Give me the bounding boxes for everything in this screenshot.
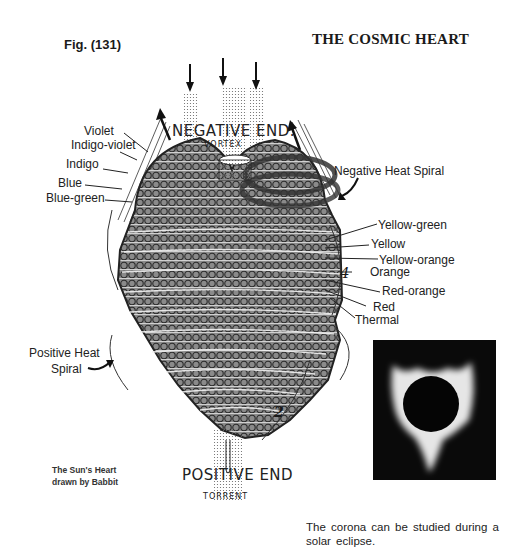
label-spiral: Spiral [51, 362, 82, 376]
label-positive-heat: Positive Heat [29, 346, 100, 360]
label-thermal: Thermal [355, 313, 399, 327]
coil-number-2: 2 [274, 404, 284, 420]
label-yellow-green: Yellow-green [378, 218, 447, 232]
label-indigo: Indigo [66, 157, 99, 171]
caption-right-line2: solar eclipse. [306, 534, 499, 548]
positive-end-label: POSITIVE END [182, 466, 293, 484]
caption-left-line1: The Sun's Heart [52, 464, 118, 476]
label-blue: Blue [58, 176, 82, 190]
corona-photo [373, 340, 496, 480]
label-indigo-violet: Indigo-violet [71, 138, 136, 152]
label-orange: Orange [370, 265, 410, 279]
caption-right-line1: The corona can be studied during a [306, 520, 499, 534]
label-red: Red [373, 300, 395, 314]
label-red-orange: Red-orange [382, 284, 445, 298]
label-violet: Violet [84, 124, 114, 138]
heart-body [118, 138, 342, 438]
negative-end-label: NEGATIVE END. [172, 122, 295, 140]
vortex-label: VORTEX [204, 140, 242, 149]
caption-sun-heart: The Sun's Heart drawn by Babbit [52, 464, 118, 488]
coil-number-4: 4 [340, 264, 350, 282]
eclipse-image [373, 340, 496, 480]
torrent-label: TORRENT [203, 492, 248, 501]
label-yellow: Yellow [371, 237, 405, 251]
caption-left-line2: drawn by Babbit [52, 476, 118, 488]
label-negative-heat-spiral: Negative Heat Spiral [334, 164, 444, 178]
caption-corona: The corona can be studied during a solar… [306, 520, 499, 548]
label-blue-green: Blue-green [46, 191, 105, 205]
